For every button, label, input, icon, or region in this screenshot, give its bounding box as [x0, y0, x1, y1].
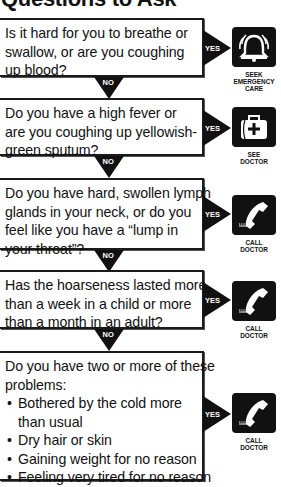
question-text-line: Do you have hard, swollen lymph: [5, 184, 198, 203]
symptom-item: Gaining weight for no reason: [5, 450, 198, 469]
question-box-1: Is it hard for you to breathe or swallow…: [0, 18, 204, 77]
no-label: NO: [103, 78, 114, 87]
action-label: CALL DOCTOR: [231, 325, 277, 339]
question-text-line: are you coughing up yellowish-: [5, 123, 198, 142]
symptom-item: Feeling very tired for no reason: [5, 468, 198, 487]
symptom-list: Bothered by the cold more than usual Dry…: [5, 394, 198, 487]
question-box-4: Has the hoarseness lasted more than a we…: [0, 270, 204, 329]
question-text-line: problems:: [5, 376, 198, 395]
question-text-line: Has the hoarseness lasted more: [5, 276, 198, 295]
symptom-item: Dry hair or skin: [5, 431, 198, 450]
phone-icon: [232, 393, 276, 433]
action-label: CALL DOCTOR: [231, 437, 277, 451]
symptom-item: Bothered by the cold more than usual: [5, 394, 198, 431]
question-text-line: feel like you have a “lump in: [5, 221, 198, 240]
no-label: NO: [103, 157, 114, 166]
action-call-doctor: CALL DOCTOR: [231, 393, 277, 451]
action-call-doctor: CALL DOCTOR: [231, 281, 277, 339]
no-arrow-2: NO: [94, 156, 124, 178]
phone-icon: [232, 281, 276, 321]
page-title: Questions to Ask: [1, 0, 176, 12]
action-label: SEE DOCTOR: [231, 151, 277, 165]
yes-arrow-2: YES: [203, 110, 231, 146]
action-see-doctor: SEE DOCTOR: [231, 107, 277, 165]
bell-alarm-icon: [232, 27, 276, 67]
question-text-line: Do you have two or more of these: [5, 357, 198, 376]
question-text-line: swallow, or are you coughing: [5, 43, 198, 62]
question-box-2: Do you have a high fever or are you coug…: [0, 98, 204, 156]
question-text-line: glands in your neck, or do you: [5, 203, 198, 222]
action-call-doctor: CALL DOCTOR: [231, 195, 277, 253]
yes-arrow-1: YES: [203, 30, 231, 66]
action-label: CALL DOCTOR: [231, 239, 277, 253]
yes-label: YES: [205, 296, 220, 305]
medical-bag-icon: [232, 107, 276, 147]
question-box-3: Do you have hard, swollen lymph glands i…: [0, 178, 204, 250]
no-arrow-3: NO: [94, 250, 124, 272]
action-seek-emergency-care: SEEK EMERGENCY CARE: [231, 27, 277, 92]
phone-icon: [232, 195, 276, 235]
question-text-line: than a week in a child or more: [5, 295, 198, 314]
question-text-line: Do you have a high fever or: [5, 104, 198, 123]
question-box-5: Do you have two or more of these problem…: [0, 351, 204, 481]
yes-arrow-3: YES: [203, 196, 231, 232]
no-label: NO: [103, 330, 114, 339]
yes-label: YES: [205, 210, 220, 219]
action-label: SEEK EMERGENCY CARE: [231, 71, 277, 92]
question-text-line: Is it hard for you to breathe or: [5, 24, 198, 43]
no-label: NO: [103, 251, 114, 260]
no-arrow-4: NO: [94, 329, 124, 351]
yes-label: YES: [205, 124, 220, 133]
yes-label: YES: [205, 410, 220, 419]
yes-arrow-5: YES: [203, 396, 231, 432]
yes-arrow-4: YES: [203, 282, 231, 318]
yes-label: YES: [205, 44, 220, 53]
no-arrow-1: NO: [94, 77, 124, 99]
